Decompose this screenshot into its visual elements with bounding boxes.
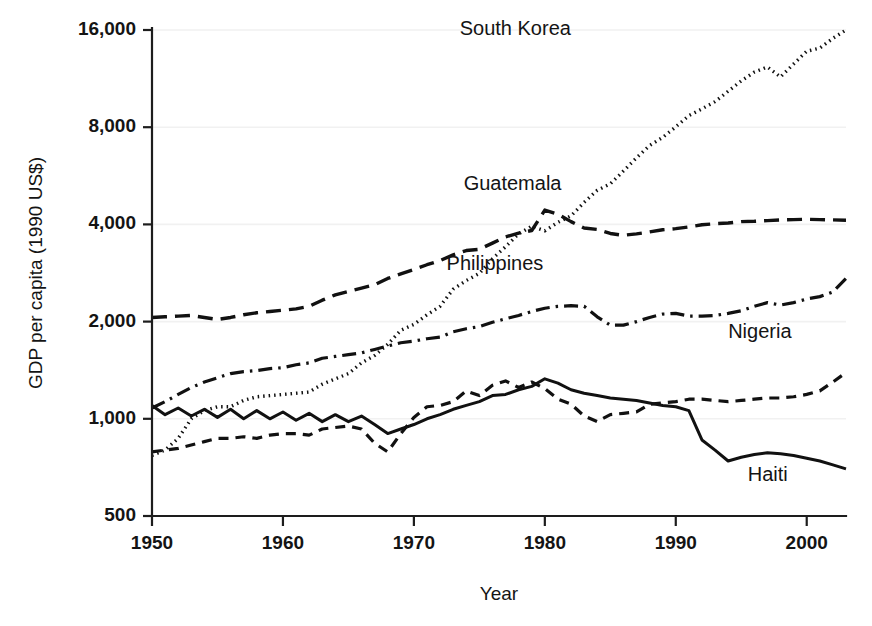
series-label-philippines: Philippines xyxy=(447,252,544,274)
chart-container: 5001,0002,0004,0008,00016,000 1950196019… xyxy=(0,0,872,626)
y-tick-label-4000: 4,000 xyxy=(88,212,136,233)
y-tick-label-8000: 8,000 xyxy=(88,115,136,136)
x-tick-label-1960: 1960 xyxy=(262,532,304,553)
y-tick-label-1000: 1,000 xyxy=(88,407,136,428)
x-tick-label-1970: 1970 xyxy=(393,532,435,553)
x-tick-label-2000: 2000 xyxy=(786,532,828,553)
x-axis-ticks-group: 195019601970198019902000 xyxy=(131,516,828,553)
series-line-philippines xyxy=(152,278,846,408)
x-tick-label-1950: 1950 xyxy=(131,532,173,553)
series-lines-group xyxy=(152,30,846,469)
series-line-haiti xyxy=(152,379,846,469)
x-tick-label-1990: 1990 xyxy=(655,532,697,553)
y-tick-label-500: 500 xyxy=(104,504,136,525)
x-tick-label-1980: 1980 xyxy=(524,532,566,553)
series-label-guatemala: Guatemala xyxy=(464,172,563,194)
y-axis-title: GDP per capita (1990 US$) xyxy=(25,157,46,389)
y-tick-label-2000: 2,000 xyxy=(88,310,136,331)
series-line-south-korea xyxy=(152,30,846,455)
series-label-nigeria: Nigeria xyxy=(728,320,792,342)
y-axis-ticks-group: 5001,0002,0004,0008,00016,000 xyxy=(78,18,152,525)
y-tick-label-16000: 16,000 xyxy=(78,18,136,39)
gdp-per-capita-line-chart: 5001,0002,0004,0008,00016,000 1950196019… xyxy=(0,0,872,626)
x-axis-title: Year xyxy=(480,583,519,604)
series-label-south-korea: South Korea xyxy=(460,17,572,39)
series-label-haiti: Haiti xyxy=(748,463,788,485)
